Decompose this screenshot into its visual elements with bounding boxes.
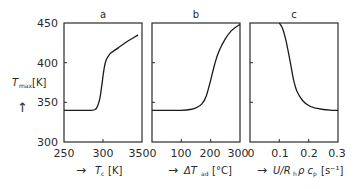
x-tick-c-0: 0 (248, 147, 255, 160)
x-tick-a-250: 250 (54, 147, 75, 160)
x-tick-c-0.2: 0.2 (300, 147, 318, 160)
panel-a-title: a (100, 9, 106, 20)
x-tick-c-0.3: 0.3 (328, 147, 346, 160)
svg-text:[K]: [K] (108, 165, 122, 176)
up-arrow-icon: ↑ (17, 100, 28, 115)
svg-text:ad: ad (201, 170, 209, 177)
x-tick-b-300: 300 (228, 147, 249, 160)
svg-text:h: h (293, 170, 297, 177)
y-label-sub: max (19, 82, 33, 89)
y-tick-400: 400 (37, 57, 58, 70)
x-tick-b-200: 200 (200, 147, 221, 160)
svg-text:U/R: U/R (273, 165, 291, 176)
panel-c: c 0 0.1 0.2 0.3 → U/R h ρ c p [s⁻¹] (248, 9, 346, 178)
y-label-main: T (12, 77, 19, 88)
chart-figure: 450 400 350 300 T max [K] ↑ a 250 300 35… (0, 0, 354, 189)
right-arrow-icon: → (168, 163, 178, 177)
x-tick-c-0.1: 0.1 (271, 147, 289, 160)
x-tick-b-100: 100 (171, 147, 192, 160)
svg-text:ΔT: ΔT (183, 165, 198, 176)
svg-text:[°C]: [°C] (212, 165, 232, 176)
panel-b: b 0 100 200 300 → ΔT ad [°C] (150, 9, 249, 177)
right-arrow-icon: → (76, 163, 86, 177)
panel-c-curve (279, 23, 338, 110)
x-axis-label-c: → U/R h ρ c p [s⁻¹] (257, 163, 343, 178)
panel-a: a 250 300 350 → T c [K] (54, 9, 150, 177)
svg-text:p: p (313, 170, 317, 178)
right-arrow-icon: → (257, 163, 267, 177)
panel-a-curve (64, 35, 138, 110)
panel-b-title: b (193, 9, 199, 20)
panel-a-frame (64, 23, 142, 142)
x-axis-label-b: → ΔT ad [°C] (168, 163, 232, 177)
panel-c-title: c (291, 9, 297, 20)
panel-b-frame (152, 23, 240, 142)
x-tick-b-0: 0 (150, 147, 157, 160)
y-tick-450: 450 (37, 17, 58, 30)
panel-b-curve (152, 25, 240, 111)
x-tick-a-300: 300 (93, 147, 114, 160)
x-tick-a-350: 350 (129, 147, 150, 160)
svg-text:ρ c: ρ c (298, 165, 314, 176)
y-tick-350: 350 (37, 96, 58, 109)
x-axis-label-a: → T c [K] (76, 163, 122, 177)
y-label-unit: [K] (32, 77, 46, 88)
svg-text:c: c (101, 170, 104, 177)
svg-text:[s⁻¹]: [s⁻¹] (321, 165, 343, 176)
